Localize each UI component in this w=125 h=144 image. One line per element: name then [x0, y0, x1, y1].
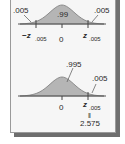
right-critical-subscript-bottom: .005 [89, 105, 101, 111]
zero-label-top: 0 [59, 35, 64, 44]
right-critical-subscript: .005 [89, 36, 101, 42]
left-area-label: .995 [66, 60, 82, 69]
equals-sign: ‖ [88, 112, 91, 119]
left-tail-label: .005 [13, 6, 29, 15]
right-tail-label: .005 [94, 6, 110, 15]
left-critical-label: −z [22, 31, 31, 40]
zero-label-bottom: 0 [59, 103, 64, 112]
normal-curves-diagram: .005 .005 .99 −z .005 0 z .005 .995 .005… [0, 0, 125, 144]
one-tailed-curve: .995 .005 0 z .005 ‖ 2.575 [18, 60, 108, 128]
right-critical-label: z [82, 31, 87, 40]
left-critical-subscript: .005 [35, 36, 47, 42]
right-tail-label-bottom: .005 [92, 74, 108, 83]
two-tailed-curve: .005 .005 .99 −z .005 0 z .005 [13, 5, 110, 44]
center-area-label: .99 [57, 10, 69, 19]
right-critical-label-bottom: z [82, 100, 87, 109]
critical-value-label: 2.575 [80, 119, 101, 128]
